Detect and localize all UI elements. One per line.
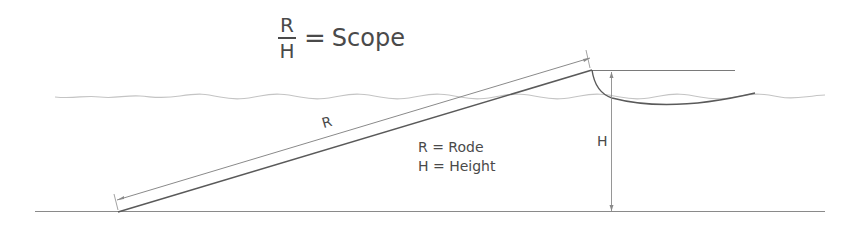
boat-hull-curve bbox=[592, 70, 755, 104]
scope-formula: R H = Scope bbox=[278, 14, 405, 62]
rode-dimension-tick-start bbox=[114, 194, 118, 210]
rode-dimension-arrow-end bbox=[583, 58, 590, 62]
water-surface-line bbox=[55, 94, 825, 99]
legend-item-height: H = Height bbox=[418, 157, 495, 176]
formula-equals: = bbox=[304, 25, 326, 51]
formula-denominator: H bbox=[279, 40, 294, 62]
height-label: H bbox=[597, 133, 608, 149]
legend: R = Rode H = Height bbox=[418, 138, 495, 176]
height-arrow-top bbox=[610, 72, 614, 78]
formula-result: Scope bbox=[332, 25, 405, 51]
legend-item-rode: R = Rode bbox=[418, 138, 495, 157]
formula-numerator: R bbox=[280, 14, 294, 36]
rode-line bbox=[118, 70, 592, 212]
formula-fraction: R H bbox=[278, 14, 296, 62]
anchor-scope-diagram bbox=[0, 0, 866, 226]
height-arrow-bottom bbox=[610, 205, 614, 211]
rode-dimension-line bbox=[117, 58, 590, 200]
